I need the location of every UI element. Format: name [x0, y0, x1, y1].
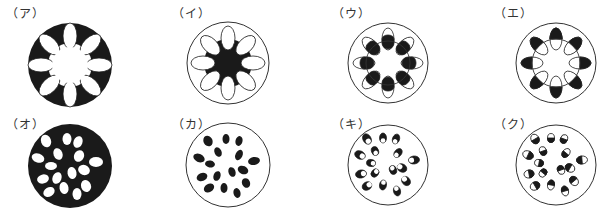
- stem-cross-section-u: [318, 0, 470, 109]
- panel-i: （イ）: [158, 0, 310, 109]
- panel-ki: （キ）: [318, 109, 470, 218]
- panel-ku: （ク）: [486, 109, 608, 218]
- stem-cross-section-ki: [318, 109, 470, 218]
- panel-a: （ア）: [0, 0, 152, 109]
- panel-u: （ウ）: [318, 0, 470, 109]
- stem-cross-section-a: [0, 0, 152, 109]
- stem-cross-section-e: [486, 0, 608, 109]
- stem-cross-section-ku: [486, 109, 608, 218]
- panel-ka: （カ）: [158, 109, 310, 218]
- panel-e: （エ）: [486, 0, 608, 109]
- stem-cross-section-o: [0, 109, 152, 218]
- stem-cross-section-i: [158, 0, 310, 109]
- stem-cross-section-ka: [158, 109, 310, 218]
- panel-o: （オ）: [0, 109, 152, 218]
